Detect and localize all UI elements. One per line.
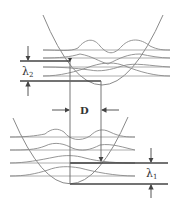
lower-wavefunction-c [10, 156, 135, 163]
lower-wavefunction-b [10, 143, 135, 150]
upper-well [43, 15, 170, 85]
transition-markers [20, 58, 168, 184]
lambda2-label: λ2 [22, 65, 33, 79]
displacement-label: D [80, 105, 89, 116]
lambda1-label: λ1 [146, 167, 157, 181]
lower-wavefunction-d [10, 167, 135, 176]
potential-energy-diagram: λ2 D λ1 [0, 0, 181, 206]
lower-well [10, 117, 135, 184]
upper-wavefunction-d [43, 64, 170, 71]
lambda1-dimension: λ1 [146, 148, 157, 198]
lambda2-dimension: λ2 [22, 46, 33, 96]
displacement-dimension: D [52, 105, 119, 116]
lower-wavefunction-a [10, 129, 135, 139]
upper-wavefunction-a [43, 40, 170, 53]
upper-wavefunction-b [43, 54, 170, 64]
